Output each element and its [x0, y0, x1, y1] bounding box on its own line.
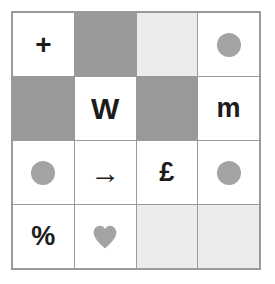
- circle-icon: [217, 33, 241, 57]
- cell-r3c2-arrow-glyph: →: [90, 158, 120, 188]
- cell-r2c2-letter-w-glyph: W: [91, 94, 119, 124]
- cell-r3c3-pound-glyph: £: [159, 159, 174, 186]
- cell-r1c4-circle[interactable]: [198, 13, 259, 76]
- cell-r2c3-gray-block[interactable]: [137, 77, 198, 140]
- cell-r4c2-heart[interactable]: [75, 205, 136, 268]
- cell-r3c2-arrow[interactable]: →: [75, 141, 136, 204]
- cell-r2c4-letter-m-glyph: m: [217, 95, 241, 122]
- cell-r3c1-circle[interactable]: [13, 141, 74, 204]
- cell-r2c1-gray-block[interactable]: [13, 77, 74, 140]
- cell-r1c1-plus-glyph: +: [35, 31, 51, 59]
- cell-r4c3-lightgray-block[interactable]: [137, 205, 198, 268]
- cell-r3c3-pound[interactable]: £: [137, 141, 198, 204]
- cell-r1c1-plus[interactable]: +: [13, 13, 74, 76]
- cell-r2c4-letter-m[interactable]: m: [198, 77, 259, 140]
- circle-icon: [217, 161, 241, 185]
- cell-r2c2-letter-w[interactable]: W: [75, 77, 136, 140]
- symbol-grid-panel: +Wm→£%: [11, 11, 261, 270]
- heart-icon: [92, 224, 118, 250]
- cell-r4c1-percent[interactable]: %: [13, 205, 74, 268]
- cell-r1c3-lightgray-block[interactable]: [137, 13, 198, 76]
- cell-r3c4-circle[interactable]: [198, 141, 259, 204]
- cell-r1c2-gray-block[interactable]: [75, 13, 136, 76]
- cell-r4c1-percent-glyph: %: [31, 223, 55, 250]
- circle-icon: [31, 161, 55, 185]
- cell-r4c4-lightgray-block[interactable]: [198, 205, 259, 268]
